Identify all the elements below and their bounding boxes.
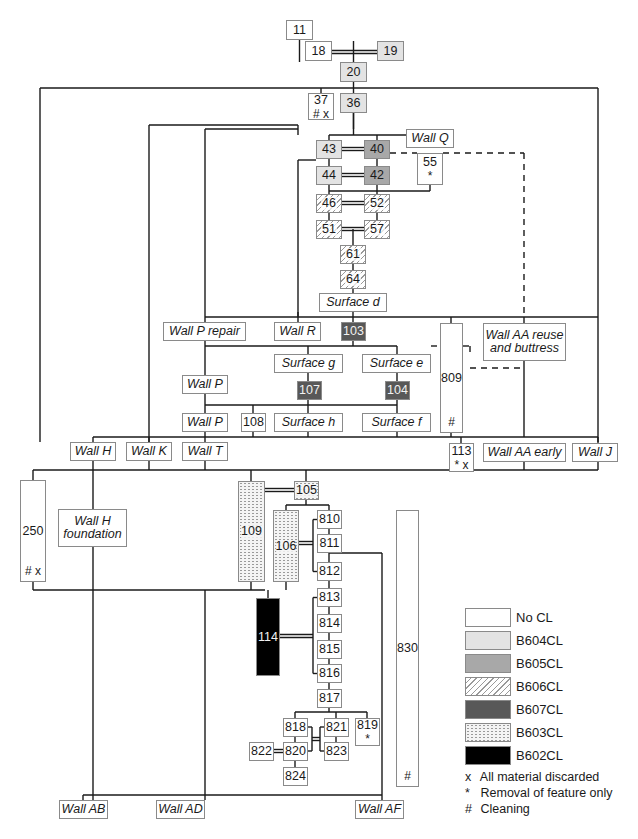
node-809: 809#: [440, 323, 463, 433]
node-surface-f: Surface f: [362, 413, 431, 432]
legend-label: B605CL: [516, 656, 563, 671]
node-label: 818: [285, 721, 306, 734]
node-label: 18: [312, 45, 326, 58]
node-label: 43: [322, 143, 336, 156]
node-810: 810: [317, 510, 342, 529]
node-42: 42: [364, 166, 390, 185]
node-label: 250: [23, 525, 44, 538]
legend-item-b605cl: B605CL: [465, 654, 563, 673]
node-label: 52: [369, 197, 385, 210]
legend-item-b603cl: B603CL: [465, 723, 563, 742]
node-label: 815: [319, 643, 340, 656]
node-wall-p-upper: Wall P: [182, 375, 228, 394]
node-821: 821: [324, 718, 349, 737]
node-label: Wall T: [187, 445, 222, 458]
node-label: 810: [319, 513, 340, 526]
node-37: 37# x: [308, 93, 334, 120]
node-mark: # x: [21, 565, 45, 577]
node-label: 36: [347, 97, 361, 110]
node-surface-g: Surface g: [274, 354, 343, 373]
node-wall-ab: Wall AB: [59, 800, 108, 819]
node-label: Wall AB: [62, 803, 106, 816]
legend-label: B607CL: [516, 702, 563, 717]
node-label: Wall P: [187, 378, 223, 391]
node-43: 43: [316, 140, 342, 159]
node-wall-p-repair: Wall P repair: [163, 322, 246, 341]
node-label: 107: [299, 384, 320, 397]
asterisk-icon: *: [465, 786, 477, 800]
node-label: 40: [370, 143, 384, 156]
node-44: 44: [316, 166, 342, 185]
legend-item-b602cl: B602CL: [465, 746, 563, 765]
legend-swatch-b607cl: [465, 700, 511, 719]
node-11: 11: [286, 20, 313, 40]
node-label: 46: [321, 197, 337, 210]
node-label: 820: [285, 745, 306, 758]
node-label: 819: [357, 719, 378, 732]
legend-swatch-b605cl: [465, 654, 511, 673]
node-114: 114: [256, 598, 280, 676]
node-104: 104: [385, 381, 410, 400]
node-label: 113: [452, 445, 472, 458]
legend-swatch-b606cl: [465, 677, 511, 696]
legend-note-text: Cleaning: [480, 802, 529, 816]
node-wall-r: Wall R: [274, 322, 321, 341]
legend-item-b606cl: B606CL: [465, 677, 563, 696]
node-mark: *: [365, 733, 370, 745]
node-wall-aa-reuse: Wall AA reuse and buttress: [483, 323, 566, 361]
node-label: 823: [326, 745, 347, 758]
node-830: 830#: [396, 510, 419, 787]
node-label: 813: [319, 591, 340, 604]
legend-note-text: All material discarded: [480, 770, 600, 784]
node-label: 37: [314, 94, 328, 107]
node-label: 812: [319, 565, 340, 578]
node-823: 823: [324, 742, 349, 761]
node-815: 815: [317, 640, 342, 659]
node-816: 816: [317, 664, 342, 683]
node-label: 108: [243, 416, 264, 429]
node-113: 113* x: [449, 443, 474, 472]
node-wall-h-foundation: Wall H foundation: [58, 509, 127, 547]
node-820: 820: [283, 742, 308, 761]
node-label: 57: [369, 223, 385, 236]
node-817: 817: [317, 689, 342, 708]
legend-swatch-b604cl: [465, 631, 511, 650]
node-51: 51: [316, 220, 342, 239]
legend-item-b604cl: B604CL: [465, 631, 563, 650]
x-mark-icon: x: [465, 770, 477, 784]
node-label: 42: [370, 169, 384, 182]
node-label: Surface e: [370, 357, 424, 370]
node-wall-af: Wall AF: [355, 800, 404, 819]
node-20: 20: [340, 62, 367, 82]
node-mark: *: [428, 170, 433, 182]
node-label: 11: [293, 24, 306, 37]
node-label: Wall AA early: [488, 446, 562, 459]
node-label: 64: [345, 273, 361, 286]
node-label: 106: [276, 540, 297, 553]
node-label: 105: [296, 484, 317, 497]
node-wall-ad: Wall AD: [156, 800, 205, 819]
legend-label: B603CL: [516, 725, 563, 740]
legend-label: B606CL: [516, 679, 563, 694]
node-label: 103: [343, 325, 364, 338]
node-label: 114: [258, 631, 278, 644]
node-819: 819*: [355, 718, 380, 746]
node-103: 103: [341, 322, 366, 341]
node-wall-t: Wall T: [182, 442, 228, 461]
node-label: 817: [319, 692, 340, 705]
node-label: 44: [322, 169, 336, 182]
node-label: Wall AF: [358, 803, 401, 816]
node-mark: # x: [313, 108, 329, 120]
node-label: Wall J: [578, 446, 612, 459]
node-mark: * x: [454, 459, 468, 471]
node-label: 811: [320, 537, 340, 550]
node-19: 19: [377, 41, 404, 61]
node-surface-d: Surface d: [319, 293, 387, 312]
node-mark: #: [397, 770, 418, 782]
node-label: Surface d: [326, 296, 380, 309]
legend-item-no-cl: No CL: [465, 608, 553, 627]
legend-label: B602CL: [516, 748, 563, 763]
node-surface-e: Surface e: [362, 354, 431, 373]
node-label: Surface h: [282, 416, 336, 429]
node-813: 813: [317, 588, 342, 607]
